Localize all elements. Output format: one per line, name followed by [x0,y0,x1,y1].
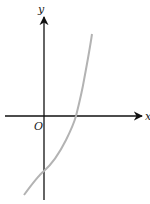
origin-label: O [34,120,43,133]
y-axis-label: y [37,3,45,16]
function-graph: y x O [0,0,150,204]
function-curve [24,34,92,195]
x-axis-label: x [145,110,150,123]
